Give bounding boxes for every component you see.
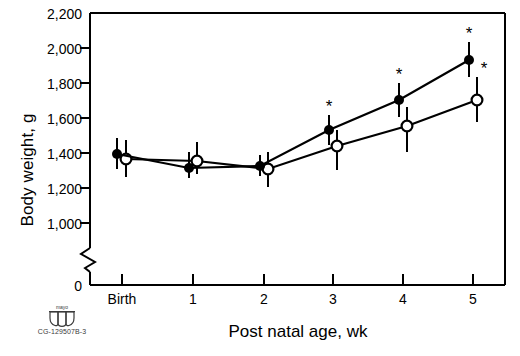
data-point-open (332, 141, 343, 152)
credit-block: mayo CG-129507B-3 (14, 303, 110, 335)
series-open-line (126, 100, 477, 169)
axis-frame (90, 13, 505, 285)
shield-right (66, 312, 74, 326)
data-point-open (192, 156, 203, 167)
shield-left (50, 312, 58, 326)
series-open-markers (121, 95, 483, 175)
data-point-filled (184, 163, 194, 173)
series-filled-line (117, 60, 469, 168)
data-point-filled (464, 55, 474, 65)
shield-center (58, 312, 66, 326)
data-point-filled (255, 161, 265, 171)
data-point-open (402, 121, 413, 132)
data-point-open (472, 95, 483, 106)
y-axis-break-icon (81, 248, 95, 272)
significance-asterisks: * * * * (326, 24, 488, 116)
series-filled-markers (112, 55, 474, 173)
credit-code-label: CG-129507B-3 (14, 328, 110, 335)
series-open-error-bars (126, 77, 477, 187)
asterisk-open-wk5: * (481, 59, 488, 78)
chart-figure: Body weight, g 2,200 2,000 1,800 1,600 1… (0, 0, 520, 356)
y-axis-ticks (80, 48, 90, 223)
x-axis-ticks (122, 274, 473, 285)
mayo-clinic-shield-logo: mayo (45, 303, 79, 327)
data-point-filled (112, 149, 122, 159)
asterisk-filled-wk4: * (396, 65, 403, 84)
logo-wordmark: mayo (56, 304, 68, 310)
series-filled-error-bars (117, 42, 469, 178)
asterisk-filled-wk5: * (466, 24, 473, 43)
asterisk-filled-wk3: * (326, 97, 333, 116)
data-point-filled (324, 125, 334, 135)
data-point-filled (394, 95, 404, 105)
